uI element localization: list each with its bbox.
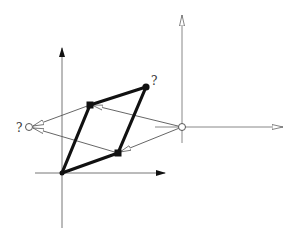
origin-dot (60, 171, 65, 176)
vertex-b-square (115, 150, 122, 157)
sum-point-label: ? (151, 74, 157, 88)
parallelogram (62, 87, 146, 173)
right-axes (155, 15, 283, 143)
left-point-label: ? (16, 121, 22, 135)
vector-a-to-c (90, 87, 146, 105)
vector-o-to-a (62, 105, 90, 173)
vertex-c-dot (142, 83, 149, 90)
vertex-a-square (87, 102, 94, 109)
projection-line-right-to-b (120, 127, 182, 152)
projection-lines (33, 105, 182, 153)
right-origin-circle (179, 124, 186, 131)
left-result-circle (26, 124, 33, 131)
vector-diagram: ? ? (0, 0, 296, 239)
left-axes (35, 48, 165, 228)
